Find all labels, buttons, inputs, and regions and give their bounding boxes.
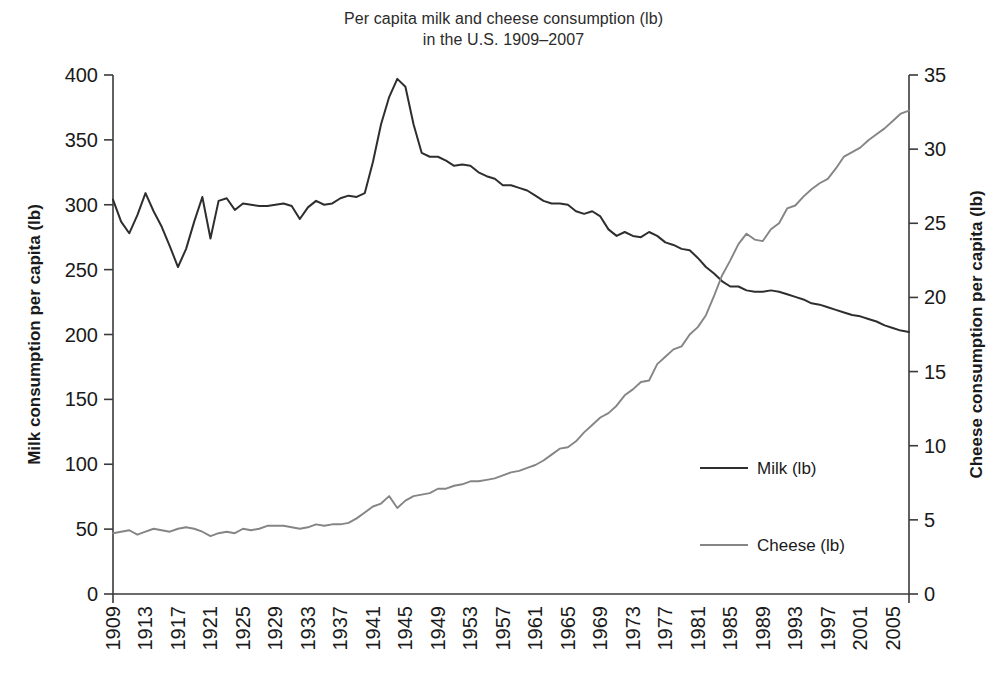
left-tick-label-300: 300 (65, 194, 98, 216)
right-tick-label-5: 5 (924, 509, 935, 531)
chart-title-line-1: Per capita milk and cheese consumption (… (0, 8, 1007, 29)
right-tick-label-30: 30 (924, 138, 946, 160)
x-tick-label-2001: 2001 (849, 606, 871, 651)
right-tick-label-15: 15 (924, 361, 946, 383)
x-tick-label-1909: 1909 (102, 606, 124, 651)
x-tick-label-1977: 1977 (654, 606, 676, 651)
x-tick-label-2005: 2005 (882, 606, 904, 651)
x-tick-label-1973: 1973 (622, 606, 644, 651)
left-tick-label-200: 200 (65, 324, 98, 346)
x-tick-label-1957: 1957 (492, 606, 514, 651)
y2-axis-title: Cheese consumption per capita (lb) (967, 190, 986, 478)
right-tick-label-25: 25 (924, 212, 946, 234)
x-tick-label-1989: 1989 (752, 606, 774, 651)
x-tick-label-1981: 1981 (687, 606, 709, 651)
x-tick-label-1945: 1945 (394, 606, 416, 651)
right-tick-label-10: 10 (924, 435, 946, 457)
x-tick-label-1969: 1969 (589, 606, 611, 651)
x-tick-label-1937: 1937 (329, 606, 351, 651)
x-tick-label-1985: 1985 (719, 606, 741, 651)
chart-figure: Per capita milk and cheese consumption (… (0, 0, 1007, 677)
chart-plot-area: 050100150200250300350400 05101520253035 … (0, 0, 1007, 677)
chart-legend: Milk (lb) Cheese (lb) (700, 459, 845, 555)
left-tick-label-50: 50 (76, 518, 98, 540)
x-tick-label-1961: 1961 (524, 606, 546, 651)
left-tick-label-350: 350 (65, 129, 98, 151)
x-tick-label-1953: 1953 (459, 606, 481, 651)
left-tick-label-100: 100 (65, 453, 98, 475)
chart-title: Per capita milk and cheese consumption (… (0, 8, 1007, 50)
right-axis-ticks: 05101520253035 (909, 64, 946, 605)
chart-title-subtitle: in the U.S. 1909–2007 (0, 29, 1007, 50)
legend-item-milk[interactable]: Milk (lb) (700, 459, 817, 478)
x-tick-label-1917: 1917 (167, 606, 189, 651)
left-tick-label-400: 400 (65, 64, 98, 86)
x-tick-label-1949: 1949 (427, 606, 449, 651)
x-tick-label-1933: 1933 (297, 606, 319, 651)
left-tick-label-150: 150 (65, 388, 98, 410)
left-tick-label-0: 0 (87, 583, 98, 605)
series-line-milk (113, 79, 909, 332)
x-tick-label-1941: 1941 (362, 606, 384, 651)
right-tick-label-20: 20 (924, 286, 946, 308)
left-tick-label-250: 250 (65, 259, 98, 281)
x-tick-label-1965: 1965 (557, 606, 579, 651)
legend-label-milk: Milk (lb) (757, 459, 817, 478)
x-tick-label-1913: 1913 (134, 606, 156, 651)
x-tick-label-1997: 1997 (817, 606, 839, 651)
y-axis-title: Milk consumption per capita (lb) (25, 204, 44, 465)
x-tick-label-1929: 1929 (264, 606, 286, 651)
right-tick-label-35: 35 (924, 64, 946, 86)
x-axis-ticks: 1909191319171921192519291933193719411945… (102, 594, 909, 651)
x-tick-label-1993: 1993 (784, 606, 806, 651)
x-tick-label-1925: 1925 (232, 606, 254, 651)
legend-label-cheese: Cheese (lb) (757, 536, 845, 555)
left-axis-ticks: 050100150200250300350400 (65, 64, 113, 605)
x-tick-label-1921: 1921 (199, 606, 221, 651)
right-tick-label-0: 0 (924, 583, 935, 605)
legend-item-cheese[interactable]: Cheese (lb) (700, 536, 845, 555)
